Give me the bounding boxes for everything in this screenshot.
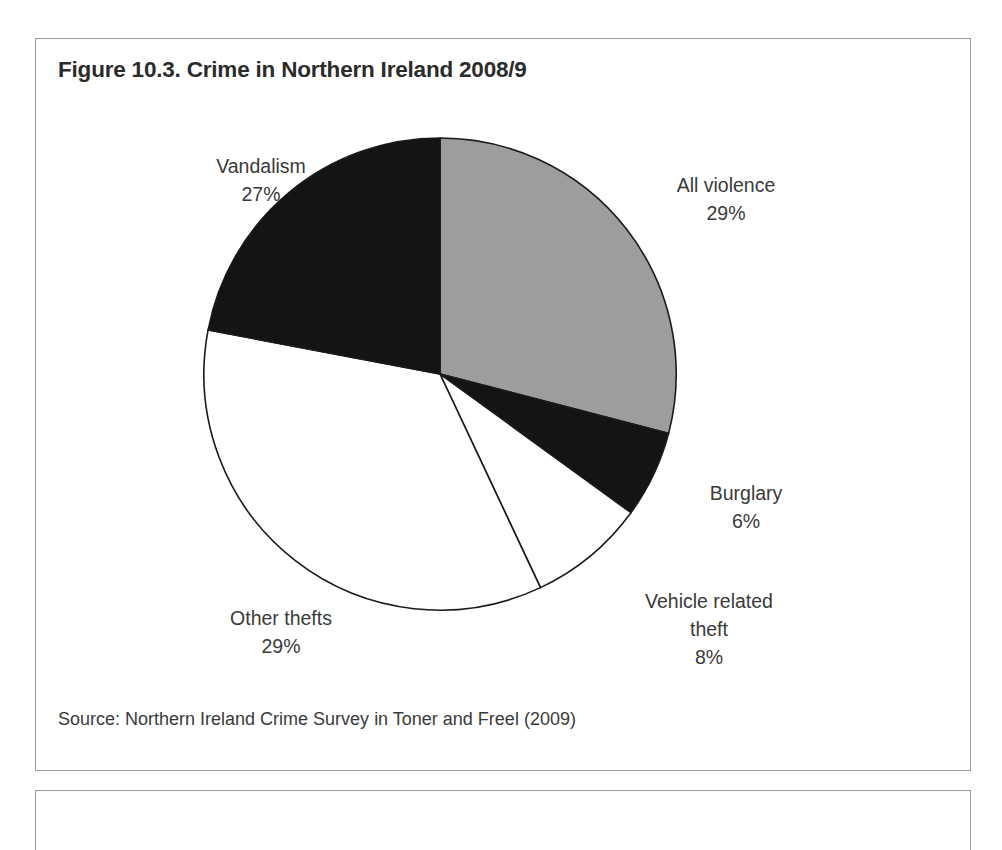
pie-label-all-violence-name: All violence [636,171,816,199]
next-figure-box [35,790,971,850]
pie-label-all-violence: All violence 29% [636,171,816,227]
pie-label-vandalism-name: Vandalism [176,152,346,180]
pie-label-other-thefts: Other thefts 29% [181,604,381,660]
pie-label-other-thefts-name: Other thefts [181,604,381,632]
figure-box: Figure 10.3. Crime in Northern Ireland 2… [35,38,971,771]
figure-source-note: Source: Northern Ireland Crime Survey in… [58,709,576,730]
pie-label-vehicle-related-theft: Vehicle related theft 8% [609,587,809,671]
pie-label-all-violence-value: 29% [636,199,816,227]
pie-label-vehicle-related-theft-name: Vehicle related [609,587,809,615]
pie-label-burglary-name: Burglary [666,479,826,507]
pie-label-vandalism: Vandalism 27% [176,152,346,208]
pie-label-burglary-value: 6% [666,507,826,535]
pie-label-burglary: Burglary 6% [666,479,826,535]
pie-chart: Vandalism 27% All violence 29% Burglary … [36,39,972,772]
pie-label-vandalism-value: 27% [176,180,346,208]
pie-label-other-thefts-value: 29% [181,632,381,660]
pie-label-vehicle-related-theft-name2: theft [609,615,809,643]
pie-label-vehicle-related-theft-value: 8% [609,643,809,671]
